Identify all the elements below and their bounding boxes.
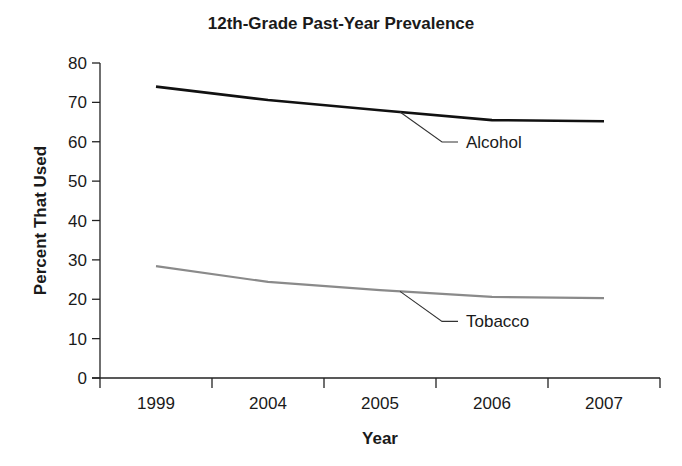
x-tick-label: 2007 — [585, 394, 623, 413]
y-tick-label: 20 — [68, 290, 87, 309]
legend-label-tobacco: Tobacco — [466, 312, 529, 331]
x-tick-label: 1999 — [137, 394, 175, 413]
series-line-tobacco — [156, 266, 604, 298]
callout-line-tobacco — [400, 291, 458, 321]
y-tick-label: 30 — [68, 251, 87, 270]
y-tick-label: 10 — [68, 330, 87, 349]
y-tick-label: 70 — [68, 93, 87, 112]
x-axis-title: Year — [362, 429, 398, 448]
legend-label-alcohol: Alcohol — [466, 133, 522, 152]
y-tick-label: 60 — [68, 133, 87, 152]
series-line-alcohol — [156, 87, 604, 122]
y-tick-label: 40 — [68, 212, 87, 231]
y-tick-label: 0 — [78, 369, 87, 388]
y-axis-title: Percent That Used — [31, 146, 50, 295]
y-tick-label: 50 — [68, 172, 87, 191]
y-tick-label: 80 — [68, 54, 87, 73]
line-chart: 0102030405060708019992004200520062007Yea… — [0, 0, 682, 466]
x-tick-label: 2005 — [361, 394, 399, 413]
x-tick-label: 2004 — [249, 394, 287, 413]
x-tick-label: 2006 — [473, 394, 511, 413]
